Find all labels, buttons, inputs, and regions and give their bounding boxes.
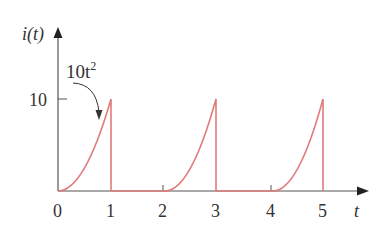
x-tick-label-5: 5 — [318, 201, 327, 221]
x-tick-label-0: 0 — [53, 201, 62, 221]
x-tick-label-1: 1 — [106, 201, 115, 221]
x-tick-label-3: 3 — [211, 201, 220, 221]
annotation-base: 10t — [66, 61, 91, 82]
y-axis-arrow-icon — [54, 27, 63, 38]
pulse-1 — [58, 99, 111, 191]
y-axis-label: i(t) — [22, 24, 44, 45]
x-tick-label-2: 2 — [158, 201, 167, 221]
pulse-2 — [165, 99, 216, 191]
x-axis-arrow-icon — [357, 187, 369, 196]
annotation-label: 10t2 — [66, 59, 96, 82]
chart-svg: 10t2 i(t) 10 t 0 1 2 3 4 5 — [0, 0, 392, 230]
annotation-superscript: 2 — [90, 59, 96, 73]
chart-figure: 10t2 i(t) 10 t 0 1 2 3 4 5 — [0, 0, 392, 230]
x-tick-label-4: 4 — [266, 201, 275, 221]
annotation-arrowhead-icon — [96, 110, 103, 120]
annotation: 10t2 — [66, 59, 103, 120]
annotation-arrow — [73, 83, 99, 112]
x-axis-label: t — [354, 201, 360, 221]
y-tick-label-10: 10 — [29, 90, 47, 110]
pulse-3 — [273, 99, 323, 191]
